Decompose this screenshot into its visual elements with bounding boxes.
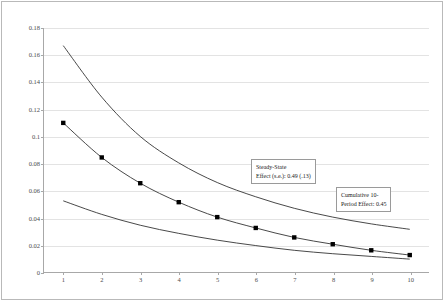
y-axis-tick-label: 0.08: [29, 161, 40, 168]
x-axis-tick-label: 8: [332, 277, 335, 284]
x-axis-tick-label: 9: [370, 277, 373, 284]
x-axis-tick-mark: [218, 272, 219, 275]
data-point-marker: [138, 181, 142, 185]
x-axis-tick-mark: [372, 272, 373, 275]
x-axis-tick-label: 4: [177, 277, 180, 284]
y-axis-tick-label: 0: [37, 270, 40, 277]
x-axis-tick-label: 1: [62, 277, 65, 284]
x-axis-tick-mark: [63, 272, 64, 275]
y-axis-tick-label: 0.02: [29, 243, 40, 250]
data-point-marker: [177, 200, 181, 204]
x-axis-tick-label: 10: [407, 277, 414, 284]
annotation-cumulative-line-1: Cumulative 10-: [341, 191, 386, 200]
chart-figure: 00.020.040.060.080.10.120.140.160.18 123…: [0, 0, 445, 302]
x-axis-tick-mark: [256, 272, 257, 275]
x-axis-tick-mark: [334, 272, 335, 275]
data-point-marker: [331, 242, 335, 246]
y-axis-tick-label: 0.04: [29, 215, 40, 222]
x-axis-tick-mark: [179, 272, 180, 275]
data-point-marker: [292, 235, 296, 239]
annotation-cumulative-effect: Cumulative 10- Period Effect: 0.45: [336, 187, 391, 212]
x-axis-tick-mark: [411, 272, 412, 275]
y-axis-tick-label: 0.1: [32, 134, 40, 141]
data-point-marker: [100, 155, 104, 159]
x-axis-tick-mark: [102, 272, 103, 275]
x-axis-tick-label: 2: [100, 277, 103, 284]
y-axis-tick-mark: [41, 273, 44, 274]
data-point-marker: [408, 253, 412, 257]
annotation-steady-state-line-1: Steady-State: [256, 163, 311, 172]
x-axis-tick-label: 6: [255, 277, 258, 284]
x-axis-tick-label: 7: [293, 277, 296, 284]
data-point-marker: [369, 248, 373, 252]
y-axis-tick-label: 0.12: [29, 106, 40, 113]
x-axis-tick-mark: [295, 272, 296, 275]
y-axis-tick-label: 0.06: [29, 188, 40, 195]
data-point-marker: [254, 226, 258, 230]
series-curves: [44, 28, 429, 272]
x-axis-tick-mark: [141, 272, 142, 275]
annotation-steady-state-line-2: Effect (s.e.): 0.49 (.13): [256, 172, 311, 181]
y-axis-tick-label: 0.18: [29, 25, 40, 32]
annotation-cumulative-line-2: Period Effect: 0.45: [341, 200, 386, 209]
plot-area: 00.020.040.060.080.10.120.140.160.18 123…: [43, 28, 429, 273]
x-axis-tick-label: 5: [216, 277, 219, 284]
data-point-marker: [61, 121, 65, 125]
annotation-steady-state-effect: Steady-State Effect (s.e.): 0.49 (.13): [251, 159, 316, 184]
y-axis-tick-label: 0.14: [29, 79, 40, 86]
data-point-marker: [215, 215, 219, 219]
x-axis-tick-label: 3: [139, 277, 142, 284]
y-axis-tick-label: 0.16: [29, 52, 40, 59]
